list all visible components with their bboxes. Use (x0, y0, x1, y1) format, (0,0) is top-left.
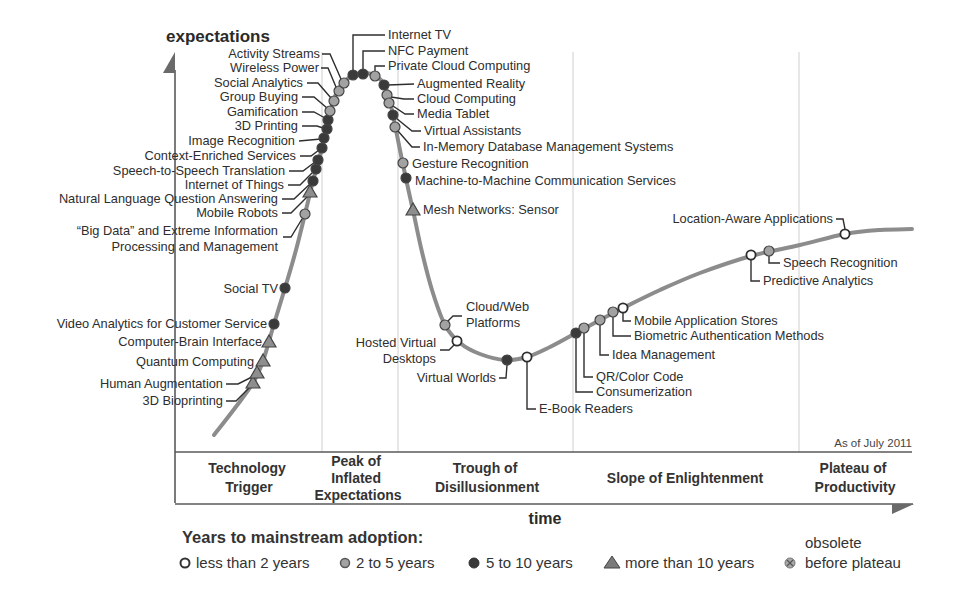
legend-less-than-2-years-icon (181, 559, 190, 568)
phase-peak-of-inflated-expectations: Peak of Inflated Expectations (314, 453, 401, 503)
leader-qr-color-code (584, 333, 593, 377)
leader-cloud-web-platforms (448, 316, 462, 321)
tech-label-gamification: Gamification (227, 104, 298, 119)
tech-label-activity-streams: Activity Streams (228, 46, 320, 61)
tech-label-e-book-readers: E-Book Readers (539, 401, 633, 416)
tech-label-machine-to-machine-communication-services: Machine-to-Machine Communication Service… (415, 173, 676, 188)
legend-more-than-10-years: more than 10 years (625, 554, 754, 571)
tech-label-in-memory-database-management-systems: In-Memory Database Management Systems (423, 139, 673, 154)
marker-gt10-icon (303, 185, 317, 197)
x-axis-arrow-icon (892, 504, 914, 514)
marker-5to10-icon (323, 115, 333, 125)
tech-label-consumerization: Consumerization (596, 384, 692, 399)
tech-label-hosted-virtual-desktops: Hosted VirtualDesktops (356, 335, 436, 366)
tech-label-speech-to-speech-translation: Speech-to-Speech Translation (113, 163, 285, 178)
legend-2-to-5-years-icon (341, 559, 350, 568)
tech-label-nfc-payment: NFC Payment (388, 43, 469, 58)
marker-2to5-icon (300, 209, 310, 219)
tech-label-natural-language-question-answering: Natural Language Question Answering (59, 191, 278, 206)
legend-5-to-10-years: 5 to 10 years (486, 554, 573, 571)
tech-label-3d-bioprinting: 3D Bioprinting (143, 393, 223, 408)
tech-label-social-tv: Social TV (223, 281, 278, 296)
leader-hosted-virtual-desktops (440, 345, 454, 350)
leader-group-buying (302, 97, 327, 108)
tech-label-idea-management: Idea Management (612, 347, 716, 362)
tech-labels: 3D BioprintingHuman AugmentationQuantum … (57, 27, 898, 416)
marker-2to5-icon (325, 106, 335, 116)
marker-5to10-icon (280, 283, 290, 293)
tech-label-cloud-computing: Cloud Computing (417, 91, 516, 106)
tech-label-internet-tv: Internet TV (388, 27, 452, 42)
marker-lt2-icon (522, 352, 531, 361)
legend-5-to-10-years-icon (469, 558, 479, 568)
tech-label-internet-of-things: Internet of Things (185, 177, 284, 192)
leader-3d-printing (302, 126, 323, 128)
phase-plateau-of-productivity: Plateau of Productivity (815, 460, 896, 495)
tech-label-virtual-worlds: Virtual Worlds (417, 370, 496, 385)
marker-lt2-icon (746, 250, 755, 259)
legend-title: Years to mainstream adoption: (182, 528, 423, 546)
legend-obsolete: obsolete (805, 534, 862, 551)
tech-label-mesh-networks-sensor: Mesh Networks: Sensor (423, 202, 560, 217)
leader-idea-management (600, 325, 609, 355)
leader-predictive-analytics (751, 260, 760, 281)
legend-before-plateau: before plateau (805, 554, 901, 571)
marker-2to5-icon (764, 246, 774, 256)
y-axis-arrow-icon (163, 52, 175, 73)
marker-gt10-icon (256, 354, 270, 366)
y-axis-title: expectations (166, 27, 270, 46)
marker-2to5-icon (398, 158, 408, 168)
tech-label-quantum-computing: Quantum Computing (136, 354, 254, 369)
tech-label-biometric-authentication-methods: Biometric Authentication Methods (634, 328, 824, 343)
tech-label-computer-brain-interface: Computer-Brain Interface (118, 334, 262, 349)
marker-lt2-icon (618, 303, 627, 312)
leader-in-memory-database-management-systems (398, 131, 420, 147)
tech-label-social-analytics: Social Analytics (214, 75, 303, 90)
leader-nfc-payment (363, 51, 385, 70)
marker-5to10-icon (348, 70, 358, 80)
technology-markers: 3D BioprintingHuman AugmentationQuantum … (57, 27, 898, 416)
marker-5to10-icon (313, 155, 323, 165)
tech-label-media-tablet: Media Tablet (417, 106, 490, 121)
marker-5to10-icon (502, 355, 512, 365)
leader-e-book-readers (527, 362, 536, 409)
leader-augmented-reality (388, 84, 414, 85)
tech-label-speech-recognition: Speech Recognition (783, 255, 898, 270)
tech-label-3d-printing: 3D Printing (235, 118, 298, 133)
leader-biometric-authentication-methods (613, 317, 631, 336)
tech-label-context-enriched-services: Context-Enriched Services (145, 148, 297, 163)
marker-2to5-icon (608, 307, 618, 317)
tech-label-mobile-robots: Mobile Robots (196, 205, 278, 220)
marker-lt2-icon (840, 229, 849, 238)
tech-label-predictive-analytics: Predictive Analytics (763, 273, 873, 288)
tech-label-human-augmentation: Human Augmentation (100, 376, 223, 391)
marker-2to5-icon (339, 78, 349, 88)
leader-virtual-worlds (499, 365, 507, 378)
leader-location-aware-applications (836, 219, 845, 229)
marker-5to10-icon (308, 176, 318, 186)
phase-technology-trigger: Technology Trigger (208, 460, 289, 495)
phase-slope-of-enlightenment: Slope of Enlightenment (607, 470, 764, 486)
tech-label-cloud-web-platforms: Cloud/WebPlatforms (466, 299, 529, 330)
marker-2to5-icon (390, 122, 400, 132)
leader-image-recognition (299, 139, 321, 141)
marker-2to5-icon (595, 315, 605, 325)
marker-2to5-icon (384, 98, 394, 108)
leader-mobile-application-stores (623, 313, 631, 321)
tech-label-qr-color-code: QR/Color Code (596, 369, 683, 384)
legend-2-to-5-years: 2 to 5 years (356, 554, 434, 571)
marker-2to5-icon (329, 96, 339, 106)
tech-label-gesture-recognition: Gesture Recognition (412, 156, 529, 171)
marker-5to10-icon (379, 80, 389, 90)
leader-speech-recognition (769, 256, 780, 263)
marker-5to10-icon (388, 110, 398, 120)
tech-label-big-data-and-extreme-information-processing-and-management: “Big Data” and Extreme InformationProces… (77, 223, 279, 254)
tech-label-wireless-power: Wireless Power (230, 60, 320, 75)
tech-label-location-aware-applications: Location-Aware Applications (672, 211, 833, 226)
x-axis-title: time (529, 510, 562, 527)
phase-labels: Technology Trigger Peak of Inflated Expe… (208, 453, 895, 503)
tech-label-group-buying: Group Buying (220, 89, 298, 104)
marker-5to10-icon (358, 69, 368, 79)
marker-5to10-icon (401, 173, 411, 183)
leader-cloud-computing (391, 97, 414, 99)
